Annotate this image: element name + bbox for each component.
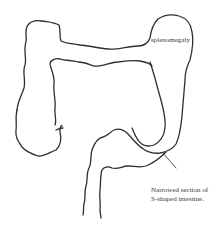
sigmoid-inner-contour [100, 152, 166, 218]
sigmoid-outer-contour [83, 129, 142, 215]
colon-inner-right-contour [132, 62, 165, 146]
colon-inner-contour [50, 59, 152, 125]
splenomegaly-label: splenomegaly [151, 36, 190, 45]
narrowed-section-label-line1: Narrowed section of [151, 186, 208, 195]
narrowed-section-leader-line [163, 153, 176, 168]
narrowed-section-label: Narrowed section of S-shaped intestine. [151, 186, 208, 204]
narrowed-section-label-line2: S-shaped intestine. [151, 195, 208, 204]
